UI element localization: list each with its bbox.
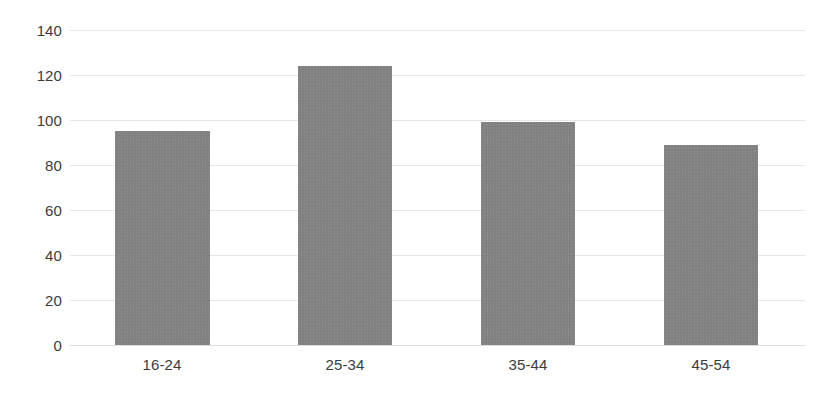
x-label-45-54: 45-54: [641, 356, 781, 373]
x-label-35-44: 35-44: [458, 356, 598, 373]
bar-25-34[interactable]: [298, 66, 392, 345]
y-tick-label-20: 20: [2, 292, 62, 309]
x-label-16-24: 16-24: [92, 356, 232, 373]
bar-45-54[interactable]: [664, 145, 758, 345]
y-tick-label-40: 40: [2, 247, 62, 264]
y-tick-label-100: 100: [2, 112, 62, 129]
bar-chart: 0 20 40 60 80 100 120 140 16-24 25-34 35…: [0, 0, 821, 413]
x-label-25-34: 25-34: [275, 356, 415, 373]
gridline-0: [70, 345, 805, 346]
y-tick-label-140: 140: [2, 22, 62, 39]
bar-35-44[interactable]: [481, 122, 575, 345]
y-tick-label-60: 60: [2, 202, 62, 219]
y-tick-label-0: 0: [2, 337, 62, 354]
y-tick-label-80: 80: [2, 157, 62, 174]
y-axis-tick-labels: 0 20 40 60 80 100 120 140: [0, 30, 62, 345]
x-axis-category-labels: 16-24 25-34 35-44 45-54: [70, 356, 805, 386]
y-tick-label-120: 120: [2, 67, 62, 84]
bar-16-24[interactable]: [115, 131, 210, 345]
bars-layer: [70, 30, 805, 345]
